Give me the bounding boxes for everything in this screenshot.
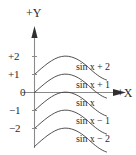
- curve-label-sin-x-minus-2: sin x − 2: [76, 133, 110, 144]
- curve-label-sin-x-plus-2: sin x + 2: [76, 61, 110, 72]
- y-tick-label-minus-1: −1: [9, 104, 20, 116]
- y-tick-label-plus-1: +1: [8, 68, 19, 80]
- y-axis: [31, 26, 37, 148]
- x-axis-label: +X: [117, 86, 132, 101]
- curve-label-sin-x-minus-1: sin x − 1: [76, 115, 110, 126]
- sine-family-figure: +Y +X +2 +1 0 −1 −2 sin x + 2 sin x + 1 …: [0, 0, 136, 155]
- y-tick-label-zero: 0: [20, 86, 25, 98]
- curve-sin-x: [35, 92, 107, 116]
- plot-area: [0, 0, 136, 155]
- curve-label-sin-x-plus-1: sin x + 1: [76, 79, 110, 90]
- curve-label-sin-x: sin x: [76, 97, 95, 108]
- y-axis-label: +Y: [26, 6, 41, 21]
- y-tick-label-minus-2: −2: [9, 122, 20, 134]
- y-tick-label-plus-2: +2: [8, 50, 19, 62]
